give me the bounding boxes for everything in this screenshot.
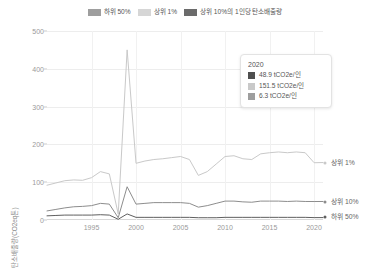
x-tick-label: 1995: [84, 224, 100, 231]
tooltip-card: 2020 48.9 tCO2e/인 151.5 tCO2e/인 6.3 tCO2…: [240, 54, 332, 108]
line-series-bottom50: [47, 214, 323, 219]
x-tick-label: 2000: [128, 224, 144, 231]
x-tick-label: 2005: [173, 224, 189, 231]
legend-swatch-icon: [88, 9, 101, 16]
tooltip-row: 151.5 tCO2e/인: [248, 83, 324, 90]
tooltip-swatch-icon: [248, 72, 255, 79]
x-tick-label: 2015: [262, 224, 278, 231]
legend-label: 하위 50%: [104, 9, 131, 16]
legend-swatch-icon: [184, 9, 197, 16]
y-tick-label: 300: [4, 103, 44, 110]
x-tick-label: 2020: [306, 224, 322, 231]
legend-label: 상위 1%: [154, 9, 177, 16]
tooltip-swatch-icon: [248, 83, 255, 90]
end-dot-bottom50: [324, 216, 327, 219]
tooltip-year: 2020: [248, 61, 324, 68]
end-label-top10: 상위 10%: [331, 198, 359, 205]
chart-legend: 하위 50% 상위 1% 상위 10%의 1인당 탄소배출량: [0, 9, 370, 16]
y-tick-label: 0: [4, 217, 44, 224]
y-tick-label: 100: [4, 179, 44, 186]
tooltip-row: 48.9 tCO2e/인: [248, 72, 324, 79]
legend-label: 상위 10%의 1인당 탄소배출량: [200, 9, 282, 16]
end-label-bottom50: 하위 50%: [331, 214, 359, 221]
tooltip-row: 6.3 tCO2e/인: [248, 93, 324, 100]
y-tick-label: 400: [4, 65, 44, 72]
end-dot-top1: [324, 162, 327, 165]
y-tick-label: 500: [4, 28, 44, 35]
legend-item-bottom50[interactable]: 하위 50%: [88, 9, 131, 16]
tooltip-value: 151.5 tCO2e/인: [259, 83, 304, 90]
tooltip-value: 6.3 tCO2e/인: [259, 93, 297, 100]
x-tick-label: 2010: [217, 224, 233, 231]
line-series-top10: [47, 187, 323, 218]
legend-swatch-icon: [138, 9, 151, 16]
tooltip-value: 48.9 tCO2e/인: [259, 72, 301, 79]
y-axis-title: 탄소배출량(CO2eq톤): [12, 148, 18, 268]
end-label-top1: 상위 1%: [331, 160, 355, 167]
legend-item-top10-percapita[interactable]: 상위 10%의 1인당 탄소배출량: [184, 9, 282, 16]
tooltip-swatch-icon: [248, 93, 255, 100]
y-tick-label: 200: [4, 141, 44, 148]
legend-item-top1[interactable]: 상위 1%: [138, 9, 177, 16]
end-dot-top10: [324, 200, 327, 203]
